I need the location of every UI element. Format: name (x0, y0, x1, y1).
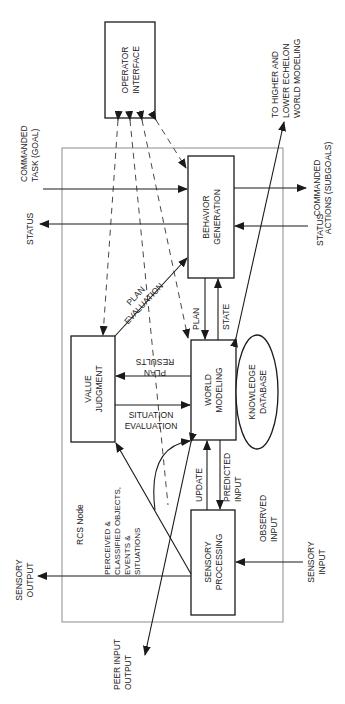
plan-results-label: PLAN RESULTS (135, 357, 174, 378)
sensory-output-label: SENSORY OUTPUT (14, 559, 35, 601)
svg-text:SENSORY: SENSORY (203, 541, 213, 583)
operator-interface-box (105, 22, 155, 118)
svg-text:COMMANDED: COMMANDED (19, 125, 29, 182)
svg-text:WORLD MODELING: WORLD MODELING (292, 39, 302, 118)
dashed-link-value-judgment (103, 120, 118, 335)
peer-io-label: PEER INPUT OUTPUT (112, 639, 133, 690)
status-out-label: STATUS (25, 212, 35, 245)
svg-text:TASK (GOAL): TASK (GOAL) (30, 129, 40, 182)
status-in-label: STATUS (315, 213, 325, 246)
svg-text:SENSORY: SENSORY (14, 559, 24, 601)
sensory-processing-box (191, 510, 235, 615)
knowledge-database-ellipse (236, 335, 278, 449)
svg-text:VALUE: VALUE (83, 375, 93, 403)
svg-text:PROCESSING: PROCESSING (214, 534, 224, 591)
svg-text:EVALUATION: EVALUATION (125, 421, 178, 431)
svg-text:INPUT: INPUT (233, 477, 243, 503)
svg-text:STATUS: STATUS (25, 212, 35, 245)
echelon-label: TO HIGHER AND LOWER ECHELON WORLD MODELI… (270, 39, 302, 118)
svg-text:PLAN: PLAN (144, 368, 166, 378)
svg-text:SITUATION: SITUATION (129, 410, 174, 420)
knowledge-database-label: KNOWLEDGE DATABASE (247, 364, 268, 420)
echelon-arrow (236, 122, 284, 338)
svg-text:RCS Node: RCS Node (75, 504, 85, 545)
peer-io-arrow (145, 442, 191, 655)
svg-text:STATE: STATE (221, 304, 231, 330)
plan-label: PLAN (191, 308, 201, 330)
svg-text:STATUS: STATUS (315, 213, 325, 246)
svg-text:TO HIGHER AND: TO HIGHER AND (270, 51, 280, 118)
predicted-input-label: PREDICTED INPUT (222, 453, 243, 502)
svg-text:EVENTS &: EVENTS & (123, 535, 132, 575)
situation-evaluation-label: SITUATION EVALUATION (125, 410, 178, 431)
sensory-curve-arrow (154, 441, 190, 510)
sensory-processing-label: SENSORY PROCESSING (203, 534, 224, 591)
rcs-node-label: RCS Node (75, 504, 85, 545)
dashed-link-behavior (156, 120, 186, 168)
svg-text:SENSORY: SENSORY (306, 541, 316, 583)
commanded-task-label: COMMANDED TASK (GOAL) (19, 125, 40, 182)
svg-text:DATABASE: DATABASE (258, 370, 268, 414)
svg-text:SITUATIONS: SITUATIONS (133, 528, 142, 575)
update-label: UPDATE (194, 468, 204, 502)
svg-text:CLASSIFIED OBJECTS,: CLASSIFIED OBJECTS, (113, 487, 122, 575)
svg-text:RESULTS: RESULTS (135, 357, 174, 367)
svg-text:WORLD: WORLD (203, 374, 213, 406)
operator-interface-label: OPERATOR INTERFACE (120, 46, 141, 94)
svg-text:INPUT: INPUT (269, 517, 279, 543)
behavior-generation-label: BEHAVIOR GENERATION (201, 189, 222, 245)
plan-evaluation-label: PLAN EVALUATION (114, 273, 165, 326)
svg-text:PEER INPUT: PEER INPUT (112, 639, 122, 690)
perceived-objects-label: PERCEIVED & CLASSIFIED OBJECTS, EVENTS &… (103, 487, 142, 575)
value-judgment-box (71, 336, 115, 442)
svg-text:MODELING: MODELING (214, 367, 224, 412)
state-label: STATE (221, 304, 231, 330)
svg-text:OPERATOR: OPERATOR (120, 47, 130, 94)
svg-text:PERCEIVED &: PERCEIVED & (103, 521, 112, 575)
svg-text:OUTPUT: OUTPUT (25, 563, 35, 598)
svg-text:COMMANDED: COMMANDED (312, 160, 322, 217)
observed-input-label: OBSERVED INPUT (258, 495, 279, 542)
svg-text:OBSERVED: OBSERVED (258, 495, 268, 542)
svg-text:LOWER ECHELON: LOWER ECHELON (281, 43, 291, 118)
svg-text:INTERFACE: INTERFACE (131, 46, 141, 94)
svg-text:KNOWLEDGE: KNOWLEDGE (247, 364, 257, 420)
svg-text:GENERATION: GENERATION (212, 189, 222, 245)
dashed-link-world-modeling (142, 120, 188, 338)
svg-text:BEHAVIOR: BEHAVIOR (201, 195, 211, 238)
svg-text:UPDATE: UPDATE (194, 468, 204, 502)
svg-text:PLAN: PLAN (191, 308, 201, 330)
svg-text:INPUT: INPUT (317, 549, 327, 575)
svg-text:OUTPUT: OUTPUT (123, 655, 133, 690)
svg-text:JUDGMENT: JUDGMENT (94, 365, 104, 412)
behavior-generation-box (188, 156, 234, 278)
svg-text:PREDICTED: PREDICTED (222, 453, 232, 502)
rcs-node-diagram: OPERATOR INTERFACE BEHAVIOR GENERATION W… (0, 0, 345, 704)
sensory-input-label: SENSORY INPUT (306, 541, 327, 583)
